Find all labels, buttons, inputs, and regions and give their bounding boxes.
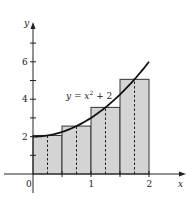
function-label-lhs: y = x <box>65 91 89 101</box>
x-axis-label: x <box>178 179 183 189</box>
x-tick-label: 2 <box>147 179 153 189</box>
origin-label: 0 <box>26 179 32 189</box>
y-tick-label: 2 <box>22 132 28 142</box>
function-label: y = x2 + 2 <box>65 89 112 101</box>
y-axis-arrow-icon <box>31 22 36 29</box>
x-tick-label: 1 <box>89 179 95 189</box>
riemann-sum-diagram: x y 0 12246 y = x2 + 2 <box>0 0 194 203</box>
y-axis-label: y <box>23 18 30 28</box>
y-tick-label: 4 <box>22 94 28 104</box>
y-tick-label: 6 <box>22 57 28 67</box>
function-label-rhs: + 2 <box>93 91 112 101</box>
x-axis-arrow-icon <box>179 172 186 177</box>
